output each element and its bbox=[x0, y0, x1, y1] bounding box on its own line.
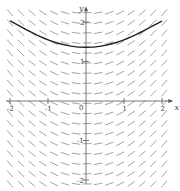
direction-segment bbox=[61, 132, 69, 134]
direction-segment bbox=[29, 121, 35, 126]
direction-segment bbox=[29, 10, 35, 15]
direction-segment bbox=[29, 20, 35, 25]
x-axis-arrow-icon bbox=[168, 99, 173, 103]
direction-segment bbox=[150, 121, 156, 127]
direction-segment bbox=[162, 70, 167, 76]
direction-segment bbox=[18, 10, 24, 16]
direction-segment bbox=[7, 40, 12, 46]
direction-segment bbox=[105, 162, 113, 165]
direction-segment bbox=[162, 30, 167, 36]
x-tick-label: -2 bbox=[7, 105, 14, 113]
direction-segment bbox=[139, 131, 145, 136]
direction-segment bbox=[94, 12, 102, 13]
direction-segment bbox=[40, 81, 47, 85]
direction-segment bbox=[105, 102, 113, 105]
direction-segment bbox=[7, 20, 12, 26]
x-tick-label: 1 bbox=[123, 105, 127, 113]
direction-segment bbox=[61, 12, 69, 14]
direction-segment bbox=[128, 141, 135, 146]
direction-segment bbox=[29, 50, 35, 55]
x-tick-label: -1 bbox=[45, 105, 52, 113]
direction-segment bbox=[162, 181, 167, 187]
direction-segment bbox=[72, 73, 80, 74]
direction-segment bbox=[50, 172, 57, 175]
direction-segment bbox=[117, 71, 124, 75]
direction-segment bbox=[29, 81, 35, 86]
direction-segment bbox=[94, 113, 102, 114]
direction-segment bbox=[105, 112, 113, 115]
direction-segment bbox=[150, 70, 156, 76]
y-tick-label: 2 bbox=[80, 19, 84, 27]
direction-segment bbox=[128, 162, 135, 166]
direction-segment bbox=[150, 50, 156, 56]
direction-segment bbox=[139, 10, 145, 15]
direction-segment bbox=[61, 32, 69, 34]
direction-segment bbox=[40, 152, 47, 156]
direction-segment bbox=[162, 161, 167, 167]
direction-segment bbox=[150, 181, 156, 187]
direction-segment bbox=[61, 102, 69, 104]
direction-segment bbox=[61, 22, 69, 24]
direction-segment bbox=[61, 163, 69, 165]
direction-segment bbox=[72, 173, 80, 174]
direction-segment bbox=[94, 93, 102, 94]
direction-segment bbox=[117, 91, 124, 95]
direction-segment bbox=[139, 50, 145, 55]
direction-segment bbox=[40, 121, 47, 125]
direction-segment bbox=[50, 21, 57, 24]
direction-segment bbox=[50, 142, 57, 145]
direction-segment bbox=[72, 62, 80, 63]
direction-segment bbox=[50, 81, 57, 84]
direction-segment bbox=[139, 20, 145, 25]
direction-segment bbox=[105, 92, 113, 95]
direction-segment bbox=[128, 131, 135, 136]
direction-segment bbox=[40, 31, 47, 35]
direction-segment bbox=[7, 10, 12, 16]
direction-segment bbox=[40, 61, 47, 65]
direction-segment bbox=[117, 61, 124, 65]
direction-segment bbox=[94, 103, 102, 104]
direction-segment bbox=[40, 162, 47, 166]
direction-segment bbox=[29, 101, 35, 106]
direction-segment bbox=[40, 131, 47, 135]
direction-segment bbox=[18, 20, 24, 26]
direction-segment bbox=[18, 161, 24, 167]
direction-segment bbox=[150, 151, 156, 157]
direction-segment bbox=[117, 162, 124, 166]
direction-segment bbox=[40, 91, 47, 95]
direction-segment bbox=[117, 31, 124, 35]
direction-segment bbox=[72, 133, 80, 134]
direction-segment bbox=[139, 181, 145, 186]
direction-segment bbox=[128, 41, 135, 45]
direction-segment bbox=[7, 30, 12, 36]
direction-segment bbox=[139, 151, 145, 156]
direction-segment bbox=[18, 171, 24, 177]
direction-segment bbox=[94, 143, 102, 144]
direction-segment bbox=[128, 71, 135, 75]
direction-segment bbox=[50, 162, 57, 165]
direction-segment bbox=[29, 61, 35, 66]
axes: -2-112 21-1-2 x y 0 bbox=[6, 4, 179, 184]
direction-segment bbox=[128, 101, 135, 105]
direction-segment bbox=[162, 171, 167, 177]
direction-segment bbox=[128, 91, 135, 96]
direction-segment bbox=[7, 161, 12, 167]
direction-segment bbox=[18, 50, 24, 56]
direction-segment bbox=[150, 131, 156, 137]
direction-segment bbox=[105, 62, 113, 65]
direction-segment bbox=[128, 151, 135, 156]
direction-segment bbox=[139, 60, 145, 65]
direction-segment bbox=[150, 90, 156, 96]
direction-segment bbox=[40, 71, 47, 75]
slope-field-plot: -2-112 21-1-2 x y 0 bbox=[0, 0, 180, 191]
direction-segment bbox=[61, 183, 69, 185]
direction-segment bbox=[150, 171, 156, 177]
direction-segment bbox=[72, 42, 80, 43]
direction-segment bbox=[94, 183, 102, 184]
direction-segment bbox=[7, 60, 12, 66]
direction-segment bbox=[29, 171, 35, 176]
direction-segment bbox=[128, 182, 135, 187]
direction-segment bbox=[117, 122, 124, 126]
y-tick-label: 1 bbox=[80, 58, 84, 66]
direction-segment bbox=[162, 10, 167, 16]
